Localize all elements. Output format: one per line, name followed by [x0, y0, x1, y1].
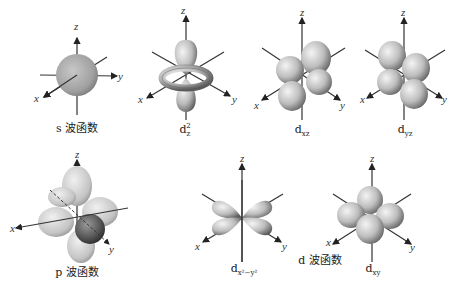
dyz-caption: dyz — [398, 123, 413, 138]
dz2-orbital: z y x — [137, 4, 237, 120]
svg-text:x: x — [253, 99, 259, 111]
svg-text:z: z — [74, 148, 80, 160]
dz2-caption: dz2 — [179, 122, 190, 138]
dyz-orbital: z y x — [359, 6, 447, 120]
svg-text:x: x — [9, 222, 15, 234]
svg-text:z: z — [369, 152, 375, 164]
dz2-caption-main: d — [179, 123, 186, 136]
dz2-caption-sub: z — [186, 130, 190, 138]
d-group-label: d 波函数 — [298, 251, 342, 267]
dz2-caption-sup: 2 — [186, 122, 190, 130]
svg-text:y: y — [108, 243, 114, 255]
s-orbital: z y x — [33, 20, 123, 115]
orbital-diagram: z y x z y x z y x z y — [0, 0, 459, 289]
svg-text:x: x — [137, 93, 143, 105]
s-caption: s 波函数 — [56, 119, 98, 135]
svg-text:z: z — [180, 4, 186, 16]
dxz-orbital: z y x — [253, 6, 345, 120]
svg-text:z: z — [239, 152, 245, 164]
dx2-y2-caption-sub: x²−y² — [238, 269, 257, 277]
dxz-caption: dxz — [295, 123, 310, 138]
dx2-y2-orbital: z y x — [194, 152, 287, 262]
dx2-y2-caption: dx²−y² — [231, 262, 257, 277]
dxy-caption-main: d — [366, 262, 373, 275]
svg-text:y: y — [339, 99, 345, 111]
svg-text:y: y — [117, 70, 123, 82]
p-caption: p 波函数 — [55, 263, 99, 279]
svg-text:y: y — [441, 93, 447, 105]
svg-text:x: x — [359, 93, 365, 105]
dxz-caption-main: d — [295, 123, 302, 136]
dxy-orbital: z y x — [325, 152, 415, 262]
p-orbital: z y x — [9, 148, 128, 263]
svg-text:y: y — [409, 241, 415, 253]
svg-text:x: x — [33, 92, 39, 104]
dxz-caption-sub: xz — [302, 130, 310, 138]
svg-text:x: x — [325, 236, 331, 248]
svg-text:y: y — [281, 240, 287, 252]
svg-text:z: z — [299, 6, 305, 18]
dx2-y2-caption-main: d — [231, 262, 238, 275]
dyz-caption-main: d — [398, 123, 405, 136]
svg-text:x: x — [194, 240, 200, 252]
dxy-caption: dxy — [366, 262, 381, 277]
dxy-caption-sub: xy — [373, 269, 381, 277]
svg-text:z: z — [73, 20, 79, 32]
svg-text:y: y — [231, 93, 237, 105]
svg-text:z: z — [400, 6, 406, 18]
dyz-caption-sub: yz — [405, 130, 413, 138]
